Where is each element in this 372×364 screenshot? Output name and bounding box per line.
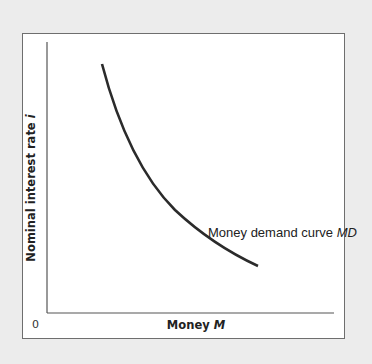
y-axis-label-text: Nominal interest rate <box>24 118 38 261</box>
y-axis-label: Nominal interest rate i <box>24 114 38 261</box>
curve-annotation-variable: MD <box>337 225 357 240</box>
x-axis-variable: M <box>214 318 225 332</box>
x-axis-label: Money M <box>167 318 225 332</box>
curve-annotation-text: Money demand curve <box>208 225 337 240</box>
y-axis-variable: i <box>24 114 38 118</box>
origin-label: 0 <box>32 318 39 331</box>
curve-annotation: Money demand curve MD <box>208 225 357 240</box>
plot-area <box>0 0 372 364</box>
x-axis-label-text: Money <box>167 318 214 332</box>
